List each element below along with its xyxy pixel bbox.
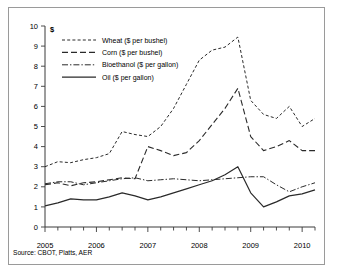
series-line-3: [45, 167, 315, 207]
data-series-group: [45, 37, 315, 207]
y-tick-label: 9: [34, 42, 38, 51]
legend-label-0: Wheat ($ per bushel): [102, 37, 167, 45]
x-tick-label: 2008: [191, 241, 208, 250]
y-axis-unit-label: $: [50, 25, 55, 34]
x-tick-label: 2010: [294, 241, 311, 250]
y-axis-tick-labels: 012345678910: [30, 22, 38, 232]
y-tick-label: 3: [34, 162, 38, 171]
price-line-chart: 012345678910 200520062007200820092010 $ …: [9, 8, 324, 264]
y-tick-label: 2: [34, 182, 38, 191]
y-axis-ticks: [41, 26, 45, 227]
y-tick-label: 4: [34, 142, 38, 151]
chart-plot-area: 012345678910 200520062007200820092010 $ …: [9, 8, 324, 264]
y-tick-label: 10: [30, 22, 38, 31]
legend-label-1: Corn ($ per bushel): [102, 49, 162, 57]
y-tick-label: 0: [34, 223, 38, 232]
chart-legend: Wheat ($ per bushel)Corn ($ per bushel)B…: [62, 37, 178, 82]
y-tick-label: 5: [34, 122, 38, 131]
series-line-1: [45, 88, 315, 185]
source-note: Source: CBOT, Platts, AER: [13, 249, 92, 256]
y-tick-label: 1: [34, 203, 38, 212]
series-line-2: [45, 177, 315, 192]
legend-label-3: Oil ($ per gallon): [102, 74, 154, 82]
x-axis-ticks: [45, 227, 315, 232]
legend-label-2: Bioethanol ($ per gallon): [102, 61, 178, 69]
x-tick-label: 2007: [140, 241, 157, 250]
y-tick-label: 8: [34, 62, 38, 71]
y-tick-label: 6: [34, 102, 38, 111]
x-tick-label: 2009: [242, 241, 259, 250]
chart-frame: 012345678910 200520062007200820092010 $ …: [8, 7, 325, 265]
y-tick-label: 7: [34, 82, 38, 91]
